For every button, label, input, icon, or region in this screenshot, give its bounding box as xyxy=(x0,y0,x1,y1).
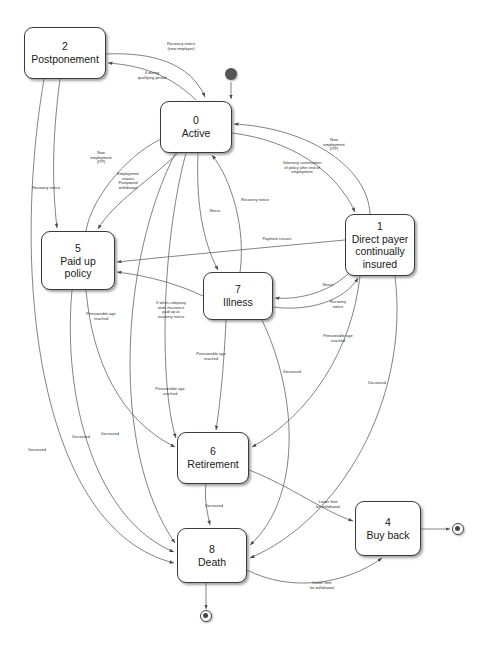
final-state-node xyxy=(200,610,212,622)
state-node-0[interactable]: 0Active xyxy=(160,101,232,153)
initial-state-node xyxy=(225,68,237,80)
state-label: Direct payer continually insured xyxy=(348,233,413,271)
state-label: Paid up policy xyxy=(56,255,100,280)
state-id: 1 xyxy=(377,220,383,233)
state-label: Retirement xyxy=(183,458,242,471)
state-node-5[interactable]: 5Paid up policy xyxy=(41,231,115,290)
state-node-4[interactable]: 4Buy back xyxy=(355,501,421,556)
state-label: Postponement xyxy=(27,53,103,66)
state-node-1[interactable]: 1Direct payer continually insured xyxy=(345,214,415,276)
state-label: Death xyxy=(194,556,230,569)
state-label: Buy back xyxy=(362,529,413,542)
state-id: 4 xyxy=(385,516,391,529)
state-id: 2 xyxy=(62,40,68,53)
state-diagram: 2Postponement0Active1Direct payer contin… xyxy=(0,0,484,648)
state-node-7[interactable]: 7Illness xyxy=(203,272,273,320)
state-node-6[interactable]: 6Retirement xyxy=(177,432,249,484)
state-id: 8 xyxy=(209,543,215,556)
final-state-core xyxy=(203,613,208,618)
state-label: Illness xyxy=(219,296,257,309)
state-id: 6 xyxy=(210,445,216,458)
state-id: 5 xyxy=(75,242,81,255)
state-node-2[interactable]: 2Postponement xyxy=(24,27,106,79)
state-node-8[interactable]: 8Death xyxy=(177,528,247,583)
state-id: 0 xyxy=(193,114,199,127)
state-id: 7 xyxy=(235,283,241,296)
final-state-core xyxy=(455,526,460,531)
final-state-node xyxy=(452,523,464,535)
state-label: Active xyxy=(178,127,215,140)
